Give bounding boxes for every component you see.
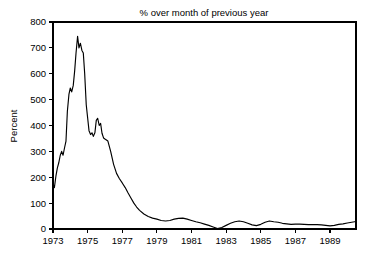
x-tick-label: 1979: [146, 235, 167, 246]
x-tick-label: 1989: [319, 235, 340, 246]
y-tick-label: 600: [30, 68, 46, 79]
x-tick-label: 1973: [42, 235, 63, 246]
y-tick-label: 0: [41, 223, 46, 234]
y-tick-label: 800: [30, 16, 46, 27]
x-tick-label: 1981: [181, 235, 202, 246]
y-axis-ticks: 0100200300400500600700800: [30, 16, 53, 234]
y-tick-label: 100: [30, 198, 46, 209]
y-tick-label: 400: [30, 120, 46, 131]
plot-background: [53, 22, 356, 229]
x-axis-ticks: 197319751977197919811983198519871989: [42, 229, 340, 246]
x-tick-label: 1975: [77, 235, 98, 246]
y-tick-label: 200: [30, 172, 46, 183]
line-chart-svg: % over month of previous year Percent 01…: [0, 0, 370, 265]
y-tick-label: 700: [30, 42, 46, 53]
x-tick-label: 1987: [285, 235, 306, 246]
x-tick-label: 1977: [112, 235, 133, 246]
x-tick-label: 1985: [250, 235, 271, 246]
y-tick-label: 500: [30, 94, 46, 105]
chart-figure: % over month of previous year Percent 01…: [0, 0, 370, 265]
chart-title: % over month of previous year: [140, 7, 269, 18]
y-tick-label: 300: [30, 146, 46, 157]
x-tick-label: 1983: [216, 235, 237, 246]
y-axis-title: Percent: [8, 109, 19, 142]
